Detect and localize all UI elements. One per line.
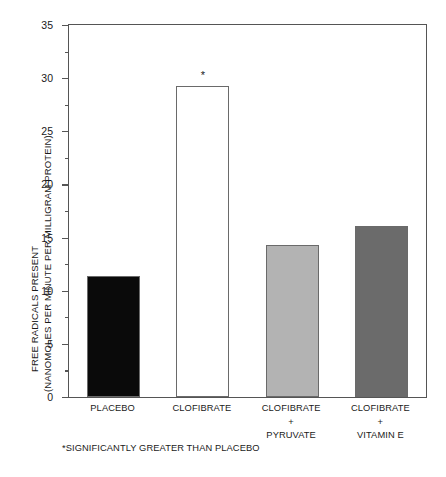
y-tick-minor <box>65 370 69 371</box>
y-tick-major: 25 <box>62 131 69 132</box>
plot-area: 05101520253035 * <box>68 24 427 398</box>
x-axis-label-line: PYRUVATE <box>262 429 321 443</box>
x-axis-label-line: CLOFIBRATE <box>351 402 410 416</box>
y-tick-major: 30 <box>62 78 69 79</box>
y-tick-minor <box>65 158 69 159</box>
y-axis-title-line-2: (NANOMOLES PER MINUTE PER MILLIGRAM PROT… <box>42 135 53 392</box>
x-axis-label-2: CLOFIBRATE+PYRUVATE <box>262 402 321 443</box>
y-tick-major: 20 <box>62 184 69 185</box>
x-axis-label-line: VITAMIN E <box>351 429 410 443</box>
y-tick-label: 5 <box>47 338 53 350</box>
x-axis-label-line: PLACEBO <box>90 402 135 416</box>
y-tick-label: 35 <box>41 19 53 31</box>
y-tick-minor <box>65 264 69 265</box>
y-axis-title: FREE RADICALS PRESENT (NANOMOLES PER MIN… <box>0 0 40 400</box>
bar-placebo <box>87 276 140 397</box>
y-tick-major: 5 <box>62 344 69 345</box>
y-tick-minor <box>65 211 69 212</box>
x-axis-label-line: CLOFIBRATE <box>262 402 321 416</box>
y-tick-minor <box>65 317 69 318</box>
x-axis-label-line: CLOFIBRATE <box>173 402 232 416</box>
y-axis-title-line-1: FREE RADICALS PRESENT <box>29 246 40 372</box>
x-axis-label-line: + <box>262 416 321 430</box>
chart-figure: FREE RADICALS PRESENT (NANOMOLES PER MIN… <box>0 0 446 477</box>
y-tick-label: 30 <box>41 72 53 84</box>
y-tick-major: 15 <box>62 238 69 239</box>
y-tick-major: 0 <box>62 397 69 398</box>
x-axis-label-3: CLOFIBRATE+VITAMIN E <box>351 402 410 443</box>
y-tick-label: 15 <box>41 232 53 244</box>
y-tick-minor <box>65 105 69 106</box>
y-tick-label: 25 <box>41 125 53 137</box>
x-axis-label-line: + <box>351 416 410 430</box>
bar-clofibrate-vitamin-e <box>355 226 408 397</box>
y-tick-minor <box>65 52 69 53</box>
chart-footnote: *SIGNIFICANTLY GREATER THAN PLACEBO <box>62 443 260 453</box>
x-axis-label-0: PLACEBO <box>90 402 135 416</box>
bar-clofibrate <box>176 86 229 397</box>
significance-asterisk: * <box>201 70 205 81</box>
x-axis-label-1: CLOFIBRATE <box>173 402 232 416</box>
y-tick-label: 10 <box>41 285 53 297</box>
y-tick-label: 20 <box>41 178 53 190</box>
bar-clofibrate-pyruvate <box>266 245 319 397</box>
y-tick-label: 0 <box>47 391 53 403</box>
y-tick-major: 35 <box>62 25 69 26</box>
y-tick-major: 10 <box>62 291 69 292</box>
